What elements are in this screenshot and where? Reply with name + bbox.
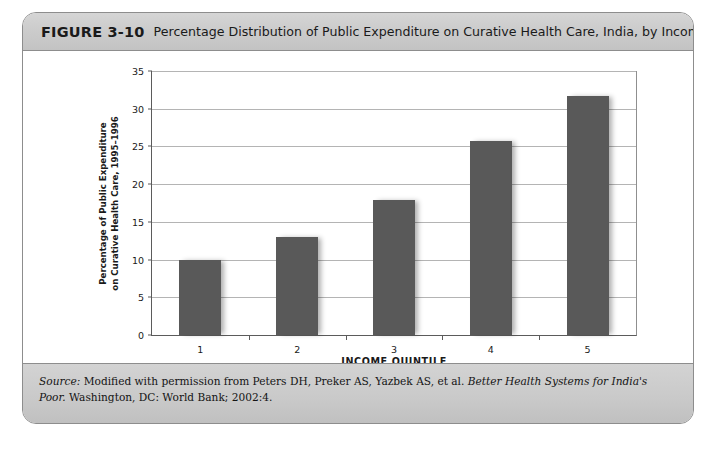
bar	[179, 260, 221, 335]
x-tick-label: 3	[391, 344, 397, 355]
y-tick-label: 25	[132, 141, 144, 152]
source-text: Source: Modified with permission from Pe…	[39, 374, 677, 406]
x-tick-mark	[539, 335, 540, 340]
x-tick-mark	[442, 335, 443, 340]
figure-title: Percentage Distribution of Public Expend…	[154, 24, 694, 39]
chart-panel: Percentage of Public Expenditure on Cura…	[23, 51, 693, 364]
y-tick-label: 0	[138, 330, 144, 341]
bar	[470, 141, 512, 335]
bar	[276, 237, 318, 335]
source-text-after: Washington, DC: World Bank; 2002:4.	[66, 391, 273, 403]
y-tick-label: 20	[132, 179, 144, 190]
y-tick-label: 5	[138, 292, 144, 303]
x-tick-mark	[249, 335, 250, 340]
y-tick-label: 35	[132, 66, 144, 77]
x-tick-label: 1	[180, 344, 220, 355]
x-tick-label: 5	[568, 344, 608, 355]
y-tick-label: 30	[132, 103, 144, 114]
y-tick-label: 10	[132, 254, 144, 265]
x-tick-mark	[346, 335, 347, 340]
y-tick-label: 15	[132, 216, 144, 227]
x-tick-label: 2	[294, 344, 300, 355]
bar-series	[152, 71, 636, 335]
plot-area: 05101520253035 1(Poorest)2345(Richest)	[151, 71, 637, 336]
figure-number: FIGURE 3-10	[41, 24, 145, 40]
bar	[567, 96, 609, 335]
source-text-before: Modified with permission from Peters DH,…	[80, 375, 467, 387]
figure-frame: FIGURE 3-10 Percentage Distribution of P…	[22, 12, 694, 424]
source-note: Source: Modified with permission from Pe…	[23, 363, 693, 423]
y-axis-title: Percentage of Public Expenditure on Cura…	[87, 71, 131, 336]
bar	[373, 200, 415, 335]
x-tick-label: 4	[488, 344, 494, 355]
y-axis-title-line1: Percentage of Public Expenditure	[97, 122, 109, 284]
figure-header: FIGURE 3-10 Percentage Distribution of P…	[23, 13, 693, 51]
gridline	[152, 335, 636, 336]
y-axis-title-line2: on Curative Health Care, 1995–1996	[109, 116, 121, 291]
source-label: Source:	[39, 375, 80, 387]
